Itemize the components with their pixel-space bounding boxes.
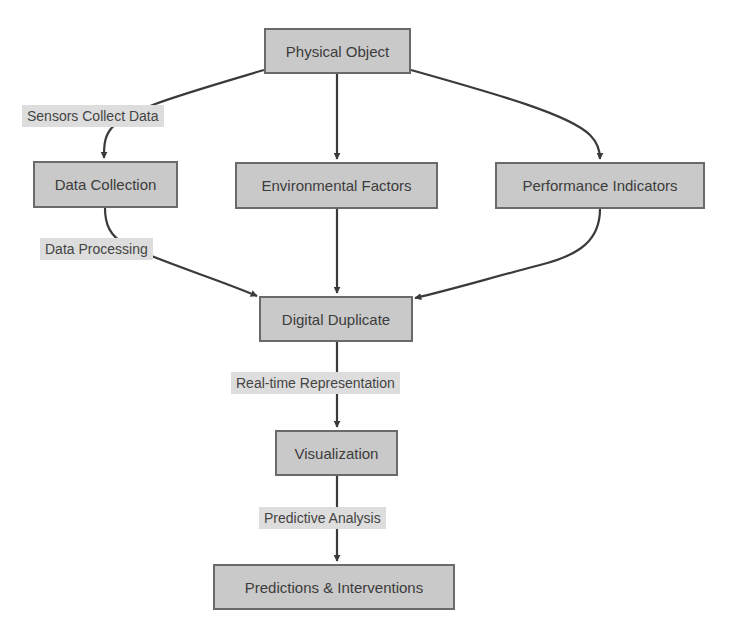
node-label: Digital Duplicate [282, 311, 390, 328]
node-digital-duplicate: Digital Duplicate [259, 296, 413, 342]
node-data-collection: Data Collection [33, 161, 178, 208]
edge-label-data-processing: Data Processing [40, 238, 153, 260]
node-label: Visualization [295, 445, 379, 462]
edge-physical-to-performance [411, 70, 600, 159]
edge-label-sensors-collect-data: Sensors Collect Data [22, 105, 164, 127]
node-label: Physical Object [286, 43, 389, 60]
edge-label-text: Predictive Analysis [264, 510, 381, 526]
edge-label-text: Real-time Representation [236, 375, 395, 391]
node-physical-object: Physical Object [264, 28, 411, 74]
node-label: Predictions & Interventions [245, 579, 423, 596]
edge-label-real-time-representation: Real-time Representation [231, 372, 400, 394]
node-performance-indicators: Performance Indicators [495, 162, 705, 209]
edge-performance-to-digital [415, 209, 600, 298]
node-label: Environmental Factors [261, 177, 411, 194]
edge-label-text: Sensors Collect Data [27, 108, 159, 124]
node-label: Data Collection [55, 176, 157, 193]
edge-label-predictive-analysis: Predictive Analysis [259, 507, 386, 529]
edge-label-text: Data Processing [45, 241, 148, 257]
node-visualization: Visualization [275, 430, 398, 476]
node-environmental-factors: Environmental Factors [235, 162, 438, 209]
node-predictions-interventions: Predictions & Interventions [213, 564, 455, 610]
node-label: Performance Indicators [522, 177, 677, 194]
